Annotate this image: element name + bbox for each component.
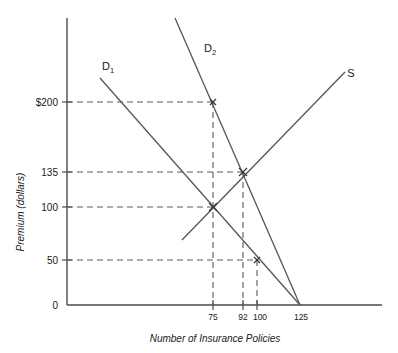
x-tick-label-92: 92: [238, 312, 248, 322]
x-axis-title: Number of Insurance Policies: [150, 333, 281, 344]
x-tick-label-125: 125: [294, 312, 308, 322]
y-tick-label-200: $200: [36, 97, 59, 108]
curve-labels: D1 D2 S: [102, 42, 355, 79]
y-tick-label-0: 0: [52, 300, 58, 311]
supply-curve-s: [182, 72, 345, 240]
curve-label-d1-base: D: [102, 60, 110, 72]
y-tick-labels: $200 135 100 50 0: [36, 97, 59, 311]
x-tick-labels: 75 92 100 125: [208, 312, 308, 322]
chart-canvas: $200 135 100 50 0 75 92 100 125 D1 D2 S …: [0, 0, 398, 353]
y-axis-title: Premium (dollars): [15, 173, 26, 252]
curve-label-d2-base: D: [204, 42, 212, 54]
demand-curve-d2: [175, 18, 300, 305]
x-tick-label-100: 100: [253, 312, 267, 322]
curve-label-d1: D1: [102, 60, 114, 75]
curve-label-d1-sub: 1: [110, 66, 114, 75]
y-tick-label-135: 135: [41, 167, 58, 178]
curves-group: [100, 18, 345, 305]
curve-label-d2-sub: 2: [212, 48, 216, 57]
curve-label-d2: D2: [204, 42, 216, 57]
demand-curve-d1: [100, 78, 300, 305]
y-tick-label-50: 50: [47, 255, 59, 266]
equilibrium-markers: [209, 99, 260, 263]
guide-lines-group: [67, 102, 257, 305]
x-tick-label-75: 75: [208, 312, 218, 322]
axes-group: [67, 18, 382, 305]
y-tick-label-100: 100: [41, 202, 58, 213]
curve-label-s: S: [347, 67, 354, 79]
supply-demand-chart: $200 135 100 50 0 75 92 100 125 D1 D2 S …: [0, 0, 398, 353]
